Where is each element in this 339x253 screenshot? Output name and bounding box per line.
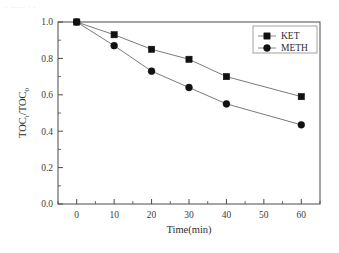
x-tick-label: 40 — [222, 210, 232, 220]
y-tick-label: 0.8 — [41, 54, 53, 64]
y-axis-tick-labels: 0.00.20.40.60.81.0 — [41, 17, 53, 209]
data-point-meth-0 — [73, 19, 80, 26]
x-tick-label: 0 — [74, 210, 79, 220]
data-point-ket-10 — [111, 32, 117, 38]
data-point-ket-40 — [223, 74, 229, 80]
chart-legend: KETMETH — [253, 26, 317, 53]
y-tick-label: 0.4 — [41, 127, 53, 137]
y-tick-label: 0.2 — [41, 163, 53, 173]
data-point-meth-40 — [223, 101, 230, 108]
x-axis-tick-labels: 0102030405060 — [74, 210, 306, 220]
x-tick-label: 10 — [109, 210, 119, 220]
legend-marker-ket — [264, 33, 270, 39]
line-chart: 0.00.20.40.60.81.0 0102030405060 TOCt/TO… — [0, 0, 339, 253]
legend-label-ket: KET — [281, 31, 300, 41]
data-point-meth-30 — [186, 84, 193, 91]
y-tick-label: 0.6 — [41, 90, 53, 100]
legend-marker-meth — [264, 45, 271, 52]
y-axis-title-main: TOC — [17, 117, 28, 138]
data-point-meth-20 — [148, 68, 155, 75]
y-tick-label: 1.0 — [41, 17, 53, 27]
y-axis-title-mid: /TOC — [17, 92, 28, 116]
data-point-meth-10 — [111, 42, 118, 49]
y-axis-ticks — [58, 22, 63, 204]
legend-label-meth: METH — [281, 43, 308, 53]
data-point-meth-60 — [298, 121, 305, 128]
data-point-ket-60 — [298, 94, 304, 100]
x-axis-title: Time(min) — [166, 224, 212, 236]
x-tick-label: 30 — [184, 210, 194, 220]
x-tick-label: 20 — [147, 210, 157, 220]
x-tick-label: 60 — [297, 210, 307, 220]
y-tick-label: 0.0 — [41, 199, 53, 209]
y-axis-title: TOCt/TOC0 — [17, 88, 31, 139]
data-point-ket-20 — [148, 46, 154, 52]
x-axis-ticks — [58, 199, 320, 204]
y-axis-title-sub-0: 0 — [23, 88, 31, 92]
x-tick-label: 50 — [259, 210, 269, 220]
figure-canvas: · ····· · · 0.00.20.40.60.81.0 010203040… — [0, 0, 339, 253]
data-point-ket-30 — [186, 56, 192, 62]
